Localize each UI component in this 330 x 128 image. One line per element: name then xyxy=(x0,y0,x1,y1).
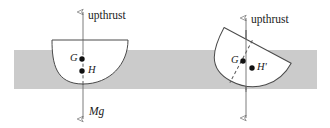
right-point-G-label: G xyxy=(231,55,239,66)
left-point-G-dot xyxy=(79,56,84,61)
right-figure-group xyxy=(202,18,292,118)
right-body-outline xyxy=(203,28,291,103)
left-point-H-dot xyxy=(79,68,84,73)
left-point-G-label: G xyxy=(70,53,78,64)
left-weight-label: Mg xyxy=(89,106,104,118)
left-body-outline xyxy=(52,40,128,84)
diagram-canvas: upthrust Mg G H upthrust G H' xyxy=(0,0,330,128)
right-upthrust-label: upthrust xyxy=(251,14,289,26)
right-point-G-dot xyxy=(240,58,245,63)
left-upthrust-label: upthrust xyxy=(88,10,126,22)
right-point-H-prime-dot xyxy=(249,65,254,70)
left-point-H-label: H xyxy=(88,65,96,76)
right-body-rotation xyxy=(202,26,292,104)
right-point-H-prime-label: H' xyxy=(257,62,267,73)
